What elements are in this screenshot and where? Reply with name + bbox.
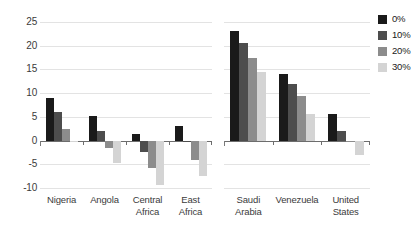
bar [191,141,199,160]
bar [306,114,315,140]
legend-swatch-icon [378,15,387,24]
chart-panel-right: SaudiArabiaVenezuelaUnitedStates [224,0,370,226]
category-label-line: Central [126,194,169,206]
bar-set [46,22,78,188]
legend-swatch-icon [378,47,387,56]
bar-set [132,22,164,188]
bar [239,43,248,140]
x-axis-tick [83,141,84,145]
gridline [40,188,212,189]
bar-group [83,22,126,188]
bar [175,126,183,140]
legend-item[interactable]: 0% [378,11,419,27]
bar-group [126,22,169,188]
legend-swatch-icon [378,63,387,72]
y-axis-tick-labels: 2520151050-5-10 [12,0,37,226]
category-label-line: United [321,194,370,206]
bar [297,96,306,141]
bar-groups [40,22,212,188]
bar [337,131,346,140]
bar-group [273,22,322,188]
bar [89,116,97,141]
legend-label: 10% [392,30,410,40]
bar [46,98,54,141]
legend-item[interactable]: 20% [378,43,419,59]
bar [70,141,78,142]
category-label-line: Angola [83,194,126,206]
y-axis-tick-label: 15 [12,64,37,74]
category-label-line: Nigeria [40,194,83,206]
x-axis-category-label: CentralAfrica [126,194,169,217]
bar [257,72,266,141]
category-label-line: Africa [169,206,212,218]
bar [148,141,156,168]
x-axis-category-label: UnitedStates [321,194,370,217]
bar-set [279,22,315,188]
bar [279,74,288,140]
bar [132,134,140,140]
legend-label: 0% [392,14,405,24]
bar [113,141,121,163]
bar-set [175,22,207,188]
bar [346,141,355,142]
plot-area [40,22,212,188]
y-axis-tick-label: 20 [12,41,37,51]
x-axis-tick [169,141,170,145]
bar-group [40,22,83,188]
category-label-line: East [169,194,212,206]
x-axis-category-label: EastAfrica [169,194,212,217]
x-axis-tick [321,141,322,145]
x-axis-category-label: Nigeria [40,194,83,217]
x-axis-tick [273,141,274,145]
bar [105,141,113,148]
legend-label: 30% [392,62,410,72]
y-axis-tick-label: -5 [12,159,37,169]
chart-panel-left: NigeriaAngolaCentralAfricaEastAfrica [40,0,212,226]
legend-swatch-icon [378,31,387,40]
category-label-line: Saudi [224,194,273,206]
bar-group [321,22,370,188]
category-label-line: Venezuela [273,194,322,206]
bar [156,141,164,185]
legend-item[interactable]: 10% [378,27,419,43]
bar [230,31,239,140]
x-axis-category-label: Venezuela [273,194,322,217]
gridline [224,188,370,189]
bar [140,141,148,153]
bar-set [230,22,266,188]
y-axis-tick-label: 10 [12,88,37,98]
chart-figure: Dollars per barrel 2520151050-5-10 Niger… [0,0,419,226]
y-axis-tick-label: 0 [12,136,37,146]
y-axis-tick-label: -10 [12,183,37,193]
bar-groups [224,22,370,188]
x-axis-tick [369,141,370,145]
bar [199,141,207,177]
bar [183,141,191,142]
bar [97,131,105,140]
bar-set [89,22,121,188]
x-axis-category-labels: SaudiArabiaVenezuelaUnitedStates [224,194,370,217]
category-label-line: Arabia [224,206,273,218]
y-axis-tick-label: 5 [12,112,37,122]
plot-area [224,22,370,188]
legend-label: 20% [392,46,410,56]
bar [355,141,364,155]
legend-item[interactable]: 30% [378,59,419,75]
bar [62,129,70,141]
bar [328,114,337,140]
x-axis-category-labels: NigeriaAngolaCentralAfricaEastAfrica [40,194,212,217]
bar [54,112,62,140]
category-label-line: Africa [126,206,169,218]
bar-group [169,22,212,188]
bar [288,84,297,141]
x-axis-category-label: SaudiArabia [224,194,273,217]
bar-set [328,22,364,188]
bar-group [224,22,273,188]
category-label-line: States [321,206,370,218]
x-axis-tick [126,141,127,145]
x-axis-category-label: Angola [83,194,126,217]
chart-legend: 0%10%20%30% [378,11,419,75]
x-axis-tick [211,141,212,145]
y-axis-tick-label: 25 [12,17,37,27]
bar [248,58,257,141]
